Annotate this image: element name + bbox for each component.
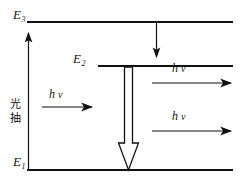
- level-label-e3: E3: [13, 8, 25, 21]
- photon-label-emitted-lower-h: h: [172, 109, 178, 123]
- level-label-e1-base: E: [13, 154, 21, 169]
- pump-label: 光 抽: [8, 98, 23, 126]
- level-label-e3-base: E: [13, 7, 21, 22]
- photon-label-incident: hν: [49, 88, 62, 100]
- photon-label-emitted-lower: hν: [172, 110, 185, 122]
- energy-level-diagram: E3 E2 E1 光 抽 hν hν hν: [0, 0, 241, 184]
- photon-label-emitted-upper-h: h: [172, 61, 178, 75]
- photon-label-incident-nu: ν: [58, 89, 62, 100]
- photon-label-incident-h: h: [49, 87, 55, 101]
- level-label-e1-sub: 1: [21, 162, 25, 171]
- level-label-e2-base: E: [73, 51, 81, 66]
- photon-label-emitted-upper: hν: [172, 62, 185, 74]
- level-label-e1: E1: [13, 155, 25, 168]
- diagram-canvas: [0, 0, 241, 184]
- level-label-e2: E2: [73, 52, 85, 65]
- level-label-e2-sub: 2: [81, 59, 85, 68]
- level-label-e3-sub: 3: [21, 15, 25, 24]
- pump-label-char-1: 光: [8, 98, 23, 112]
- pump-label-char-2: 抽: [8, 112, 23, 126]
- photon-label-emitted-upper-nu: ν: [181, 63, 185, 74]
- photon-label-emitted-lower-nu: ν: [181, 111, 185, 122]
- lasing-hollow-arrow: [119, 67, 139, 170]
